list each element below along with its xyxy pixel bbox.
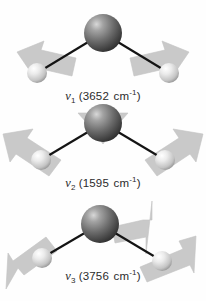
- mode-3-unit: cm: [113, 270, 129, 282]
- hydrogen-atom-left: [32, 248, 52, 268]
- mode-3-frequency: 3756: [83, 270, 109, 282]
- oxygen-atom: [84, 104, 122, 142]
- mode-3-label: v3(3756 cm-1): [0, 268, 206, 285]
- mode-2-unit-exponent: -1: [129, 175, 137, 184]
- oxygen-atom: [81, 205, 119, 243]
- vibration-mode-panel-2: v2(1595 cm-1): [0, 100, 206, 198]
- mode-3-unit-exponent: -1: [129, 268, 137, 277]
- mode-2-frequency: 1595: [83, 177, 109, 189]
- mode-3-frequency-group: (3756 cm-1): [79, 270, 141, 282]
- hydrogen-atom-left: [31, 150, 51, 170]
- vibration-mode-panel-3: v3(3756 cm-1): [0, 196, 206, 301]
- vibration-mode-panel-1: v1(3652 cm-1): [0, 0, 206, 108]
- mode-2-unit: cm: [113, 177, 129, 189]
- mode-2-subscript: 2: [71, 183, 76, 192]
- hydrogen-atom-right: [159, 63, 179, 83]
- mode-2-frequency-group: (1595 cm-1): [79, 177, 141, 189]
- mode-2-label: v2(1595 cm-1): [0, 175, 206, 192]
- oxygen-atom: [84, 14, 122, 52]
- mode-3-diagram: [0, 196, 206, 301]
- mode-1-unit-exponent: -1: [129, 88, 137, 97]
- water-vibrational-modes-figure: v1(3652 cm-1): [0, 0, 206, 301]
- hydrogen-atom-left: [27, 63, 47, 83]
- mode-3-subscript: 3: [71, 276, 76, 285]
- hydrogen-atom-right: [155, 150, 175, 170]
